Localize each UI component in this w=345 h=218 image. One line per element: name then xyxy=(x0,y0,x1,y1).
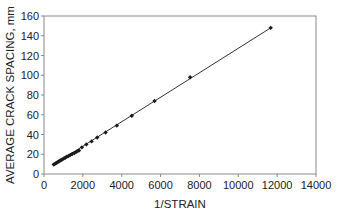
x-tick-label: 0 xyxy=(41,179,47,191)
y-tick-label: 40 xyxy=(27,129,39,141)
y-tick-label: 160 xyxy=(21,10,39,22)
x-tick-label: 6000 xyxy=(148,179,172,191)
x-tick-label: 10000 xyxy=(223,179,254,191)
y-tick-label: 20 xyxy=(27,148,39,160)
plot-area xyxy=(44,16,316,174)
x-axis: 02000400060008000100001200014000 xyxy=(41,174,331,191)
y-tick-label: 60 xyxy=(27,109,39,121)
x-tick-label: 12000 xyxy=(262,179,293,191)
x-tick-label: 8000 xyxy=(187,179,211,191)
y-axis-title: AVERAGE CRACK SPACING, mm xyxy=(4,6,16,184)
x-tick-label: 4000 xyxy=(109,179,133,191)
y-tick-label: 100 xyxy=(21,69,39,81)
x-tick-label: 2000 xyxy=(71,179,95,191)
y-tick-label: 0 xyxy=(33,168,39,180)
y-tick-label: 80 xyxy=(27,89,39,101)
y-axis: 020406080100120140160 xyxy=(21,10,44,180)
y-tick-label: 140 xyxy=(21,30,39,42)
x-axis-title: 1/STRAIN xyxy=(154,198,206,210)
crack-spacing-chart: 020406080100120140160 020004000600080001… xyxy=(0,0,345,218)
y-tick-label: 120 xyxy=(21,50,39,62)
x-tick-label: 14000 xyxy=(301,179,332,191)
